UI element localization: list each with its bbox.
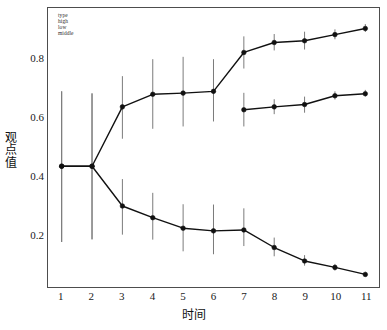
x-tick-label: 3	[119, 290, 125, 302]
legend: type high low middle	[58, 12, 74, 36]
y-tick-label: 0.8	[4, 52, 44, 64]
x-tick-label: 11	[361, 290, 372, 302]
x-tick-label: 6	[211, 290, 217, 302]
x-axis-tick-labels: 1234567891011	[0, 290, 387, 306]
y-axis-tick-labels: 0.20.40.60.8	[0, 0, 44, 330]
legend-entry-middle: middle	[58, 30, 74, 36]
plot-canvas	[48, 8, 379, 287]
x-tick-label: 5	[180, 290, 186, 302]
x-tick-label: 9	[302, 290, 308, 302]
x-axis-title: 时间	[0, 305, 387, 323]
x-tick-label: 8	[272, 290, 278, 302]
chart-figure: 观 点 值 0.20.40.60.8 type high low middle …	[0, 0, 387, 330]
y-tick-label: 0.2	[4, 229, 44, 241]
x-tick-label: 2	[89, 290, 95, 302]
plot-area: type high low middle	[47, 7, 380, 288]
x-tick-label: 1	[58, 290, 64, 302]
y-tick-label: 0.6	[4, 111, 44, 123]
x-tick-label: 10	[330, 290, 341, 302]
x-tick-label: 7	[241, 290, 247, 302]
x-tick-label: 4	[150, 290, 156, 302]
figure-caption	[0, 324, 387, 330]
y-tick-label: 0.4	[4, 170, 44, 182]
